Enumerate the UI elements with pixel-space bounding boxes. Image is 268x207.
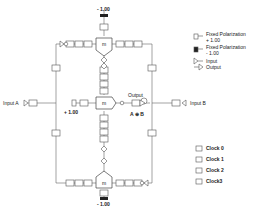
legend-clock-3: Clock3 [206, 178, 222, 184]
legend-clock-2: Clock 2 [206, 167, 224, 173]
gate-label-top: m [102, 41, 106, 47]
gate-label-middle: m [102, 100, 106, 106]
input-a-label: Input A [3, 100, 19, 106]
fixed-neg-top-icon [100, 14, 108, 17]
legend-fixed-neg-value: - 1.00 [206, 50, 219, 56]
output-expression: A ⊕ B [130, 111, 144, 117]
fixed-top-label: - 1.00 [97, 6, 110, 12]
fixed-middle-label: + 1.00 [64, 109, 78, 115]
legend-output-label: Output [206, 64, 221, 70]
legend-clock-0: Clock 0 [206, 145, 224, 151]
input-b-icon [182, 100, 186, 106]
input-a-icon [24, 100, 28, 106]
fixed-pos-middle-icon [72, 100, 76, 106]
fixed-neg-bottom-icon [100, 197, 108, 200]
input-b-label: Input B [190, 100, 206, 106]
fixed-bottom-label: - 1.00 [97, 201, 110, 207]
output-label: Output [128, 92, 143, 98]
gate-label-bottom: m [102, 180, 106, 186]
legend-fixed-pos-value: + 1.00 [206, 37, 220, 43]
legend-clock-1: Clock 1 [206, 156, 224, 162]
